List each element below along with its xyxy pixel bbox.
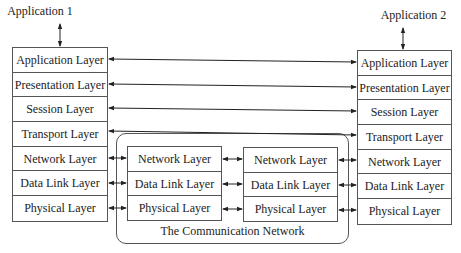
connection-arrows: [0, 0, 461, 253]
